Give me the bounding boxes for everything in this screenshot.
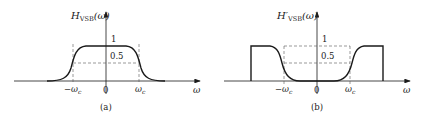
tick-pos-wc-b: ωc — [345, 84, 356, 95]
figure-a: HVSB(ω) 1 0.5 −ωc 0 ωc ω (a) — [14, 10, 201, 112]
tick-pos-wc-a: ωc — [135, 84, 146, 95]
svg-text:H′VSB(ω): H′VSB(ω) — [276, 10, 318, 23]
x-label-b: ω — [403, 85, 411, 95]
svg-text:HVSB(ω): HVSB(ω) — [70, 10, 110, 23]
level-half-a: 0.5 — [110, 51, 124, 61]
origin-a: 0 — [103, 85, 108, 95]
level-half-b: 0.5 — [321, 51, 335, 61]
origin-b: 0 — [314, 85, 319, 95]
caption-a: (a) — [100, 102, 112, 112]
figure-b: H′VSB(ω) 1 0.5 −ωc 0 ωc ω (b) — [224, 10, 411, 112]
x-label-a: ω — [193, 85, 201, 95]
level-1-b: 1 — [322, 34, 327, 44]
caption-b: (b) — [311, 102, 323, 112]
level-1-a: 1 — [111, 34, 116, 44]
vsb-filter-diagram: HVSB(ω) 1 0.5 −ωc 0 ωc ω (a) H′VSB(ω) 1 … — [0, 0, 422, 118]
tick-neg-wc-a: −ωc — [64, 84, 82, 95]
tick-neg-wc-b: −ωc — [275, 84, 293, 95]
